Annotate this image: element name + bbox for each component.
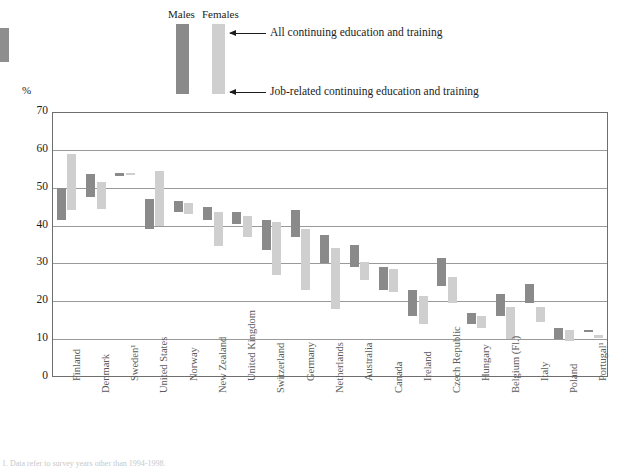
x-label-australia: Australia bbox=[363, 343, 374, 382]
bar-females-finland bbox=[67, 154, 76, 211]
bar-females-unitedkingdom bbox=[243, 216, 252, 237]
bar-females-poland bbox=[565, 330, 574, 341]
y-tick-label-60: 60 bbox=[22, 142, 48, 154]
bar-females-australia bbox=[360, 262, 369, 281]
x-label-canada: Canada bbox=[393, 362, 404, 394]
chart-footnote: 1. Data refer to survey years other than… bbox=[2, 459, 166, 468]
bar-males-italy bbox=[525, 284, 534, 303]
bar-males-unitedkingdom bbox=[232, 212, 241, 223]
bar-females-italy bbox=[536, 307, 545, 322]
y-tick-label-70: 70 bbox=[22, 104, 48, 116]
x-label-ireland: Ireland bbox=[422, 351, 433, 381]
x-axis-category-labels: FinlandDenmarkSweden¹United StatesNorway… bbox=[52, 379, 608, 469]
y-tick-label-0: 0 bbox=[22, 369, 48, 381]
legend-arrow-all-training-icon bbox=[230, 33, 266, 34]
x-label-sweden: Sweden¹ bbox=[129, 345, 140, 381]
legend-label-all-training: All continuing education and training bbox=[270, 26, 442, 38]
bar-males-netherlands bbox=[320, 235, 329, 263]
x-label-italy: Italy bbox=[539, 362, 550, 381]
bar-females-germany bbox=[301, 229, 310, 290]
legend-males-title: Males bbox=[168, 8, 195, 20]
y-tick-label-20: 20 bbox=[22, 293, 48, 305]
x-label-belgiumfl: Belgium (Fl.) bbox=[510, 336, 521, 393]
bar-females-belgiumfl bbox=[506, 307, 515, 339]
y-tick-label-30: 30 bbox=[22, 255, 48, 267]
legend-swatch-males bbox=[176, 24, 189, 94]
bar-males-belgiumfl bbox=[496, 294, 505, 317]
x-label-hungary: Hungary bbox=[480, 344, 491, 381]
bar-males-czechrepublic bbox=[437, 258, 446, 286]
x-label-poland: Poland bbox=[568, 364, 579, 393]
bar-males-hungary bbox=[467, 313, 476, 324]
bar-males-poland bbox=[554, 328, 563, 339]
bar-females-sweden bbox=[126, 173, 135, 176]
bar-males-newzealand bbox=[203, 207, 212, 220]
legend-label-job-related: Job-related continuing education and tra… bbox=[270, 85, 479, 97]
legend-females-title: Females bbox=[202, 8, 239, 20]
bar-males-australia bbox=[350, 245, 359, 268]
legend-arrow-job-related-icon bbox=[230, 92, 266, 93]
x-label-unitedstates: United States bbox=[158, 337, 169, 393]
y-tick-label-50: 50 bbox=[22, 180, 48, 192]
chart-legend: Males Females All continuing education a… bbox=[0, 0, 620, 105]
bar-females-netherlands bbox=[331, 248, 340, 309]
bars-layer bbox=[52, 112, 608, 377]
bar-males-canada bbox=[379, 267, 388, 290]
legend-swatch-females bbox=[212, 24, 225, 94]
bar-males-portugal bbox=[584, 330, 593, 333]
x-label-unitedkingdom: United Kingdom bbox=[246, 310, 257, 381]
x-label-czechrepublic: Czech Republic bbox=[451, 326, 462, 393]
bar-males-sweden bbox=[115, 173, 124, 177]
x-label-norway: Norway bbox=[188, 347, 199, 381]
bar-females-unitedstates bbox=[155, 171, 164, 226]
bar-females-newzealand bbox=[214, 212, 223, 246]
bar-females-portugal bbox=[594, 335, 603, 338]
x-label-newzealand: New Zealand bbox=[217, 337, 228, 393]
bar-males-germany bbox=[291, 210, 300, 237]
bar-males-switzerland bbox=[262, 220, 271, 250]
bar-females-czechrepublic bbox=[448, 277, 457, 304]
bar-females-hungary bbox=[477, 316, 486, 327]
bar-males-norway bbox=[174, 201, 183, 212]
y-axis-tick-labels: 010203040506070 bbox=[0, 0, 48, 470]
bar-females-switzerland bbox=[272, 222, 281, 275]
x-label-germany: Germany bbox=[305, 342, 316, 381]
x-label-finland: Finland bbox=[71, 349, 82, 381]
bar-females-canada bbox=[389, 269, 398, 292]
bar-males-unitedstates bbox=[145, 199, 154, 229]
y-tick-label-10: 10 bbox=[22, 331, 48, 343]
bar-females-ireland bbox=[419, 296, 428, 324]
bar-females-denmark bbox=[97, 182, 106, 209]
bar-males-finland bbox=[57, 188, 66, 220]
x-label-portugal: Portugal¹ bbox=[597, 342, 608, 381]
x-label-denmark: Denmark bbox=[100, 354, 111, 393]
x-label-switzerland: Switzerland bbox=[275, 343, 286, 393]
x-label-netherlands: Netherlands bbox=[334, 342, 345, 393]
bar-males-denmark bbox=[86, 174, 95, 197]
bar-males-ireland bbox=[408, 290, 417, 317]
y-tick-label-40: 40 bbox=[22, 218, 48, 230]
bar-females-norway bbox=[184, 203, 193, 214]
